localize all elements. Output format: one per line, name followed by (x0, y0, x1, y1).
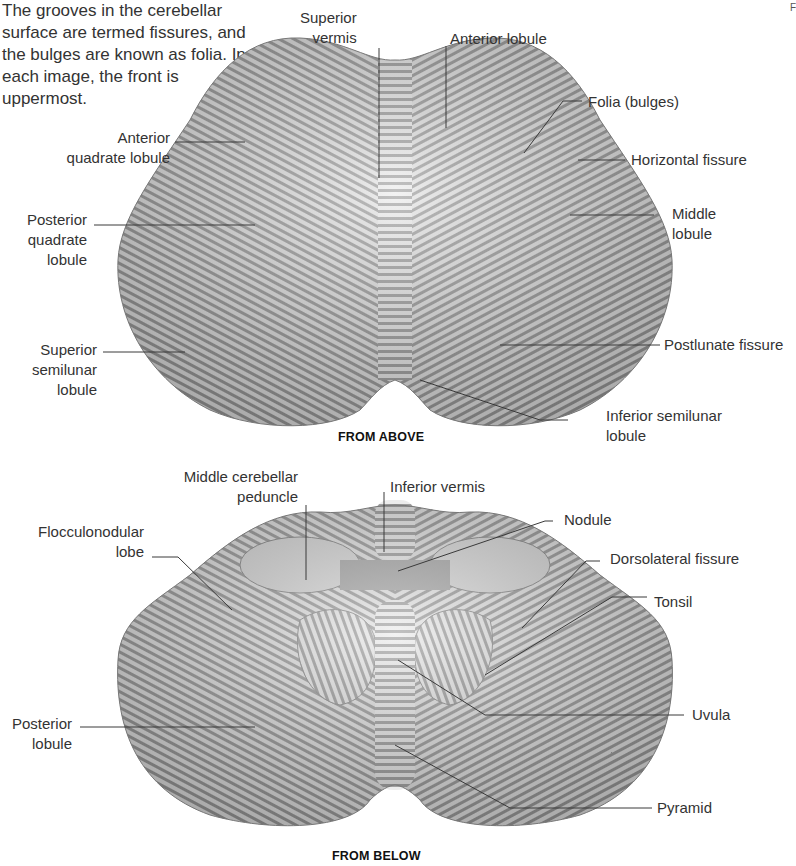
from-below-figure (118, 500, 673, 826)
caption-from-above: FROM ABOVE (338, 430, 424, 444)
label-dorsolateral-fissure: Dorsolateral fissure (610, 549, 739, 569)
label-line: Posterior (10, 210, 87, 230)
label-line: semilunar (20, 360, 97, 380)
label-line: quadrate (10, 230, 87, 250)
label-line: Middle cerebellar (160, 467, 298, 487)
label-line: Inferior semilunar (606, 406, 722, 426)
label-line: lobule (672, 224, 716, 244)
label-postlunate-fissure: Postlunate fissure (664, 335, 783, 355)
label-line: Superior (20, 340, 97, 360)
label-posterior-quadrate-lobule: Posterior quadrate lobule (10, 210, 87, 270)
label-anterior-quadrate-lobule: Anterior quadrate lobule (20, 128, 170, 168)
label-folia: Folia (bulges) (588, 92, 679, 112)
label-tonsil: Tonsil (654, 592, 692, 612)
label-flocculonodular-lobe: Flocculonodular lobe (10, 522, 144, 562)
label-line: lobule (606, 426, 722, 446)
label-superior-vermis: Superior vermis (300, 8, 357, 48)
label-inferior-semilunar-lobule: Inferior semilunar lobule (606, 406, 722, 446)
label-line: lobule (0, 734, 72, 754)
label-line: lobe (10, 542, 144, 562)
label-anterior-lobule: Anterior lobule (450, 29, 547, 49)
label-pyramid: Pyramid (657, 798, 712, 818)
label-line: Posterior (0, 714, 72, 734)
label-line: quadrate lobule (20, 148, 170, 168)
label-line: lobule (10, 250, 87, 270)
label-superior-semilunar-lobule: Superior semilunar lobule (20, 340, 97, 400)
caption-from-below: FROM BELOW (332, 849, 421, 863)
label-line: lobule (20, 380, 97, 400)
label-line: Superior (300, 8, 357, 28)
label-middle-cerebellar-peduncle: Middle cerebellar peduncle (160, 467, 298, 507)
label-middle-lobule: Middle lobule (672, 204, 716, 244)
label-line: Anterior (20, 128, 170, 148)
label-posterior-lobule: Posterior lobule (0, 714, 72, 754)
label-horizontal-fissure: Horizontal fissure (631, 150, 747, 170)
label-inferior-vermis: Inferior vermis (390, 477, 485, 497)
label-line: Middle (672, 204, 716, 224)
label-uvula: Uvula (692, 705, 730, 725)
label-line: vermis (300, 28, 357, 48)
label-nodule: Nodule (564, 510, 612, 530)
label-line: peduncle (160, 487, 298, 507)
label-line: Flocculonodular (10, 522, 144, 542)
